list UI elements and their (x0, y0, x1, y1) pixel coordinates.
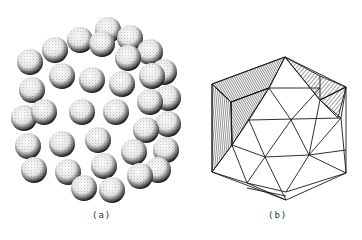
panel-a-caption: (a) (92, 210, 111, 220)
figure-canvas (0, 0, 362, 240)
sphere-cluster (11, 17, 181, 203)
panel-b-caption: (b) (268, 210, 287, 220)
polyhedron-drawing (212, 57, 346, 200)
